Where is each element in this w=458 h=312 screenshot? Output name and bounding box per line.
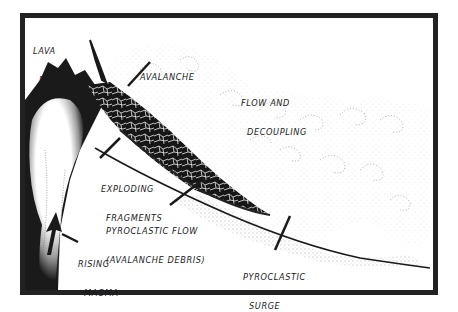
label-rising-magma: RISING MAGMA: [78, 241, 119, 308]
label-line: PYROCLASTIC: [243, 273, 306, 283]
label-line: LAVA: [33, 47, 66, 57]
label-line: PYROCLASTIC FLOW: [106, 227, 205, 237]
label-flow-and-decoupling: FLOW AND DECOUPLING: [241, 80, 307, 147]
label-line: SURGE: [243, 302, 306, 312]
label-line: RISING: [78, 260, 119, 270]
label-pyroclastic-flow: PYROCLASTIC FLOW (AVALANCHE DEBRIS): [106, 208, 205, 275]
label-line: FLOW AND: [241, 99, 307, 109]
label-line: DOME: [33, 76, 66, 86]
label-line: MAGMA: [78, 289, 119, 299]
volcano-diagram: [0, 0, 458, 312]
label-line: AVALANCHE: [140, 73, 195, 83]
exploding-leader: [100, 138, 120, 158]
lava-dome-arrow: [90, 40, 106, 82]
label-line: (AVALANCHE DEBRIS): [106, 256, 205, 266]
label-lava-dome: LAVA DOME: [33, 28, 66, 95]
label-line: EXPLODING: [101, 185, 162, 195]
label-line: DECOUPLING: [241, 128, 307, 138]
label-avalanche: AVALANCHE: [140, 54, 195, 92]
rising-magma-leader: [62, 234, 78, 242]
label-pyroclastic-surge: PYROCLASTIC SURGE: [243, 254, 306, 312]
